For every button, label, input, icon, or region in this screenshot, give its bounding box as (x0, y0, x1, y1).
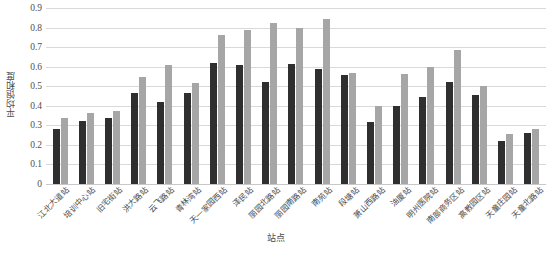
bar-group (126, 8, 152, 184)
plot-area (46, 8, 546, 184)
bar-series-1 (262, 82, 269, 184)
bar-series-2 (454, 50, 461, 184)
bar-series-1 (184, 93, 191, 184)
y-axis-tick-label: 0.5 (30, 81, 42, 91)
bar-group (47, 8, 73, 184)
bar-series-2 (401, 74, 408, 184)
bar-series-2 (349, 73, 356, 184)
bar-group (283, 8, 309, 184)
bar-series-1 (210, 63, 217, 184)
bar-series-2 (218, 35, 225, 184)
bar-group (492, 8, 518, 184)
bar-group (230, 8, 256, 184)
x-axis-tick-label: 段塘站 (338, 186, 361, 209)
bar-group (204, 8, 230, 184)
bar-series-1 (524, 133, 531, 184)
bar-series-1 (131, 93, 138, 184)
bar-series-1 (288, 64, 295, 184)
bar-group (73, 8, 99, 184)
bar-group (178, 8, 204, 184)
x-axis-tick-label: 洪大路站 (121, 186, 150, 215)
bar-series-1 (315, 69, 322, 184)
bar-group (414, 8, 440, 184)
y-axis-tick-labels: 0.90.80.70.60.50.40.30.20.10 (18, 8, 44, 184)
bar-series-1 (498, 141, 505, 184)
y-axis-tick-label: 0.3 (30, 120, 42, 130)
bar-series-2 (139, 77, 146, 184)
bar-series-2 (165, 65, 172, 184)
y-axis-tick-label: 0.6 (30, 62, 42, 72)
bar-series-1 (341, 75, 348, 184)
bar-series-2 (87, 113, 94, 184)
bar-group (335, 8, 361, 184)
bar-series-2 (323, 19, 330, 184)
x-axis-tick-label: 泽民站 (232, 186, 255, 209)
bar-series-2 (244, 30, 251, 184)
y-axis-tick-label: 0.4 (30, 101, 42, 111)
bar-series-1 (472, 95, 479, 184)
x-axis-tick-label: 南苑站 (311, 186, 334, 209)
bar-series-2 (61, 118, 68, 184)
bar-series-2 (113, 111, 120, 184)
bar-series-2 (270, 23, 277, 184)
y-axis-tick-label: 0 (37, 179, 42, 189)
bar-group (388, 8, 414, 184)
bar-series-2 (480, 86, 487, 184)
bar-series-1 (157, 102, 164, 184)
bar-group (257, 8, 283, 184)
bar-series-2 (192, 83, 199, 184)
y-axis-tick-label: 0.8 (30, 23, 42, 33)
y-axis-tick-label: 0.9 (30, 3, 42, 13)
bar-series-1 (53, 129, 60, 184)
bar-group (361, 8, 387, 184)
bar-groups (46, 8, 546, 184)
bar-series-1 (367, 122, 374, 184)
bar-series-2 (506, 134, 513, 184)
bar-group (519, 8, 545, 184)
bar-series-2 (375, 106, 382, 184)
bar-series-2 (296, 28, 303, 184)
axis-baseline (46, 184, 546, 185)
bar-series-1 (105, 118, 112, 184)
y-axis-tick-label: 0.1 (30, 159, 42, 169)
bar-series-1 (393, 106, 400, 184)
bar-group (152, 8, 178, 184)
bar-series-1 (79, 121, 86, 184)
bar-series-2 (427, 67, 434, 184)
bar-group (309, 8, 335, 184)
x-axis-tick-label: 旧宅街站 (95, 186, 124, 215)
y-axis-tick-label: 0.7 (30, 42, 42, 52)
x-axis-tick-label: 云飞路站 (148, 186, 177, 215)
bar-series-1 (236, 65, 243, 184)
bar-group (466, 8, 492, 184)
bar-series-1 (446, 82, 453, 184)
bar-group (99, 8, 125, 184)
y-axis-tick-label: 0.2 (30, 140, 42, 150)
x-axis-tick-label: 油厦站 (390, 186, 413, 209)
bar-group (440, 8, 466, 184)
x-axis-title: 站点 (0, 231, 551, 244)
bar-series-2 (532, 129, 539, 184)
bar-series-1 (419, 97, 426, 184)
bar-chart: 平均饱和度 0.90.80.70.60.50.40.30.20.10 江北大道站… (0, 0, 551, 257)
